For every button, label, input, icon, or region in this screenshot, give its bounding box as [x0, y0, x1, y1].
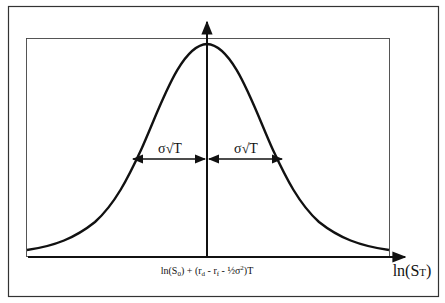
- x-axis-label: ln(ST): [393, 262, 432, 280]
- spread-label-left: σ√T: [158, 141, 182, 156]
- mean-label: ln(S0) + (rd - rf - ½σ2)T: [161, 264, 254, 278]
- normal-distribution-diagram: σ√T σ√T ln(S0) + (rd - rf - ½σ2)T ln(ST): [0, 0, 445, 303]
- outer-frame: [9, 7, 439, 297]
- spread-label-right: σ√T: [234, 141, 258, 156]
